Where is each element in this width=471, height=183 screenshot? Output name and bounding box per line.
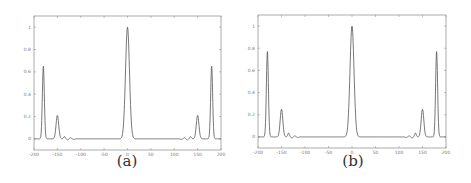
x-tick-label: 100	[170, 152, 179, 157]
x-tick-label: 50	[373, 150, 379, 155]
caption-a: (a)	[107, 152, 147, 170]
y-tick-label: 0.2	[248, 112, 255, 117]
x-tick-label: 150	[418, 150, 427, 155]
x-tick-label: -200	[253, 150, 263, 155]
y-tick-label: 0	[252, 134, 255, 139]
x-tick-label: 150	[193, 152, 202, 157]
y-tick-label: 0.6	[248, 68, 255, 73]
y-tick-label: 0.2	[24, 114, 31, 119]
x-tick-label: -150	[276, 150, 286, 155]
axes-frame	[258, 15, 446, 148]
y-tick-label: 0.8	[248, 46, 255, 51]
y-tick-label: 1	[252, 24, 255, 29]
x-tick-label: 50	[148, 152, 154, 157]
y-tick-label: 0.4	[24, 92, 31, 97]
axes-frame	[34, 16, 221, 150]
x-tick-label: -100	[76, 152, 86, 157]
y-tick-label: 0	[28, 136, 31, 141]
x-tick-label: -100	[300, 150, 310, 155]
y-tick-label: 1	[28, 25, 31, 30]
x-tick-label: -150	[52, 152, 62, 157]
x-tick-label: -200	[29, 152, 39, 157]
x-tick-label: 200	[217, 152, 226, 157]
x-tick-label: 200	[442, 150, 451, 155]
x-tick-label: -50	[325, 150, 332, 155]
signal-line	[258, 26, 446, 138]
chart-panel-a: -200-150-100-5005010015020000.20.40.60.8…	[0, 0, 235, 183]
y-tick-label: 0.4	[248, 90, 255, 95]
y-tick-label: 0.6	[24, 69, 31, 74]
y-tick-label: 0.8	[24, 47, 31, 52]
signal-line	[34, 27, 221, 140]
caption-b: (b)	[333, 152, 373, 170]
chart-panel-b: -200-150-100-5005010015020000.20.40.60.8…	[235, 0, 470, 183]
x-tick-label: 100	[395, 150, 404, 155]
